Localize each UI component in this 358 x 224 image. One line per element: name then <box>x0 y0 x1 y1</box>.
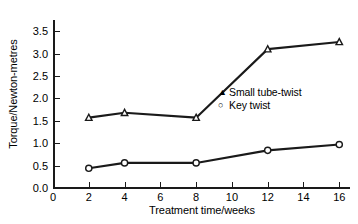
data-point-circle <box>193 160 199 166</box>
data-point-circle <box>265 147 271 153</box>
x-tick-label: 10 <box>226 192 238 203</box>
y-tick-label: 3.5 <box>33 26 48 37</box>
y-tick-label: 3.0 <box>33 48 48 59</box>
triangle-marker-icon: ▲ <box>218 86 229 99</box>
data-point-triangle <box>336 39 342 45</box>
data-point-triangle <box>264 46 270 52</box>
y-tick-label: 0.5 <box>33 160 48 171</box>
y-axis-label: Torque/Newton-metres <box>4 0 22 206</box>
x-tick-label: 8 <box>193 192 199 203</box>
x-axis-label: Treatment time/weeks <box>52 204 352 216</box>
legend-item-key-twist: ○ Key twist <box>218 99 302 112</box>
x-tick-label: 16 <box>333 192 345 203</box>
circle-marker-icon: ○ <box>218 99 229 112</box>
y-tick-label: 0.0 <box>33 183 48 194</box>
chart-figure: Torque/Newton-metres 0.00.51.01.52.02.53… <box>0 0 358 224</box>
data-point-circle <box>121 160 127 166</box>
y-tick-mark <box>55 188 60 189</box>
y-tick-label: 1.5 <box>33 115 48 126</box>
y-tick-label: 2.5 <box>33 71 48 82</box>
legend-label-small-tube-twist: Small tube-twist <box>229 86 302 99</box>
x-tick-label: 2 <box>86 192 92 203</box>
data-series-layer <box>53 20 350 188</box>
x-tick-label: 6 <box>157 192 163 203</box>
data-point-triangle <box>121 109 127 115</box>
chart-legend: ▲ Small tube-twist ○ Key twist <box>218 86 302 111</box>
x-tick-label: 14 <box>297 192 309 203</box>
y-tick-label: 1.0 <box>33 138 48 149</box>
x-tick-label: 4 <box>122 192 128 203</box>
plot-area: 0.00.51.01.52.02.53.03.5 0246810121416 <box>53 20 350 188</box>
legend-label-key-twist: Key twist <box>229 99 270 112</box>
y-tick-label: 2.0 <box>33 93 48 104</box>
data-point-circle <box>336 141 342 147</box>
legend-item-small-tube-twist: ▲ Small tube-twist <box>218 86 302 99</box>
x-tick-label: 0 <box>50 192 56 203</box>
data-point-circle <box>86 165 92 171</box>
x-tick-label: 12 <box>262 192 274 203</box>
series-line-small-tube-twist <box>89 42 339 118</box>
data-point-triangle <box>86 114 92 120</box>
